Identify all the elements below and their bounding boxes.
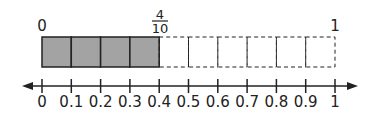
tick-label: 0.7 xyxy=(235,93,259,111)
fraction-numerator: 4 xyxy=(156,7,164,22)
shaded-part xyxy=(101,37,130,67)
unshaded-part xyxy=(247,37,276,67)
fraction-number-line-diagram: 0 4 10 1 00.10.20.30.40.50.60.70.80.91 xyxy=(0,0,374,114)
number-line-ticks: 00.10.20.30.40.50.60.70.80.91 xyxy=(37,79,340,111)
left-arrow-icon xyxy=(22,82,33,90)
tick-label: 0.1 xyxy=(59,93,83,111)
bar-start-label: 0 xyxy=(37,17,47,35)
fraction-bar xyxy=(42,37,335,67)
tick-label: 0.3 xyxy=(118,93,142,111)
unshaded-part xyxy=(218,37,247,67)
tick-label: 0.6 xyxy=(206,93,230,111)
tick-label: 0 xyxy=(37,93,47,111)
shaded-part xyxy=(42,37,71,67)
unshaded-part xyxy=(306,37,335,67)
right-arrow-icon xyxy=(347,82,358,90)
fraction-denominator: 10 xyxy=(152,21,169,36)
bar-end-label: 1 xyxy=(330,17,340,35)
shaded-part xyxy=(130,37,159,67)
number-line: 00.10.20.30.40.50.60.70.80.91 xyxy=(22,79,358,111)
shaded-part xyxy=(71,37,100,67)
tick-label: 0.4 xyxy=(147,93,171,111)
tick-label: 0.9 xyxy=(294,93,318,111)
unshaded-part xyxy=(189,37,218,67)
tick-label: 0.8 xyxy=(264,93,288,111)
shaded-fraction-label: 4 10 xyxy=(152,7,169,36)
tick-label: 0.5 xyxy=(177,93,201,111)
tick-label: 0.2 xyxy=(89,93,113,111)
unshaded-part xyxy=(276,37,305,67)
tick-label: 1 xyxy=(330,93,340,111)
unshaded-part xyxy=(159,37,188,67)
